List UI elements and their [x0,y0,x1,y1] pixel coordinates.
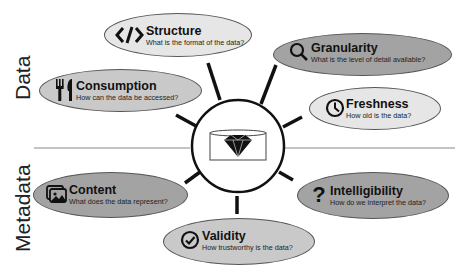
fork-knife-icon [54,77,76,103]
node-title: Structure [146,24,244,38]
node-title: Consumption [76,79,178,93]
question-mark-icon: ? [308,183,330,207]
metadata-section-label: Metadata [11,164,35,252]
node-granularity-content: Granularity What is the level of detail … [287,40,425,64]
node-title: Freshness [346,97,411,111]
node-intelligibility-content: ? Intelligibility How do we interpret th… [308,183,426,207]
node-subtitle: How do we interpret the data? [330,198,426,207]
node-subtitle: How trustworthy is the data? [202,243,293,252]
clock-icon [324,96,346,120]
code-tag-icon [114,22,146,48]
node-subtitle: What does the data represent? [69,197,168,206]
magnifier-icon [287,40,311,64]
node-freshness-content: Freshness How old is the data? [324,96,411,120]
node-consumption-content: Consumption How can the data be accessed… [54,77,178,103]
node-title: Intelligibility [330,184,426,198]
check-circle-icon [178,228,202,252]
diamond-in-cylinder-icon [210,130,266,160]
node-title: Granularity [311,41,425,55]
node-title: Validity [202,229,293,243]
node-structure-content: Structure What is the format of the data… [114,22,244,48]
image-gallery-icon [45,182,69,206]
node-content-content: Content What does the data represent? [45,182,168,206]
data-section-label: Data [11,56,35,100]
node-subtitle: How can the data be accessed? [76,93,178,102]
node-subtitle: What is the format of the data? [146,38,244,47]
node-title: Content [69,183,168,197]
node-subtitle: How old is the data? [346,111,411,120]
node-validity-content: Validity How trustworthy is the data? [178,228,293,252]
node-subtitle: What is the level of detail available? [311,55,425,64]
data-quality-diagram: Data Metadata Structure What is the form… [0,0,471,279]
